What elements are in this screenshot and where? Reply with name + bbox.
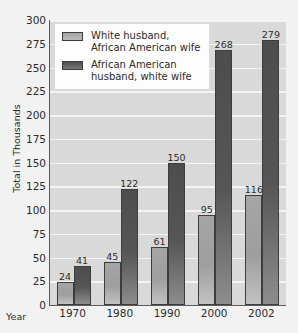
y-axis-tick-label: 225 bbox=[2, 85, 46, 97]
y-axis-tick-label: 300 bbox=[2, 14, 46, 26]
bar[interactable]: 279 bbox=[262, 40, 279, 305]
bar-value-label: 122 bbox=[120, 178, 138, 189]
x-axis-tick-label: 2002 bbox=[248, 307, 275, 319]
x-axis-tick-label: 1970 bbox=[59, 307, 86, 319]
y-axis-tick-label: 125 bbox=[2, 180, 46, 192]
y-axis-tick-label: 275 bbox=[2, 38, 46, 50]
bar-value-label: 279 bbox=[262, 29, 280, 40]
bar[interactable]: 95 bbox=[198, 215, 215, 305]
y-axis-tick-label: 250 bbox=[2, 62, 46, 74]
bar-value-label: 61 bbox=[153, 236, 165, 247]
y-axis-tick-label: 200 bbox=[2, 109, 46, 121]
bar-value-label: 268 bbox=[215, 39, 233, 50]
bar-value-label: 24 bbox=[59, 271, 71, 282]
x-axis-tick-label: 1990 bbox=[154, 307, 181, 319]
bar[interactable]: 45 bbox=[104, 262, 121, 305]
y-axis-tick-label: 0 bbox=[2, 299, 46, 311]
bar[interactable]: 61 bbox=[151, 247, 168, 305]
y-axis-tick-labels: 3002752502252001751501251007550250 bbox=[0, 0, 46, 333]
legend-label: African American husband, white wife bbox=[91, 59, 192, 83]
bar[interactable]: 122 bbox=[121, 189, 138, 305]
bar[interactable]: 24 bbox=[57, 282, 74, 305]
y-axis-tick-label: 150 bbox=[2, 157, 46, 169]
legend-swatch bbox=[62, 32, 83, 41]
legend-item[interactable]: White husband, African American wife bbox=[62, 30, 200, 54]
y-axis-tick-label: 75 bbox=[2, 228, 46, 240]
legend-swatch bbox=[62, 61, 83, 70]
bar-value-label: 41 bbox=[76, 255, 88, 266]
bar-group: 116279 bbox=[245, 20, 279, 305]
x-axis-tick-label: 2000 bbox=[201, 307, 228, 319]
bar[interactable]: 41 bbox=[74, 266, 91, 305]
bar[interactable]: 150 bbox=[168, 163, 185, 306]
bar[interactable]: 116 bbox=[245, 195, 262, 305]
bar-value-label: 116 bbox=[245, 184, 263, 195]
x-axis-tick-label: 1980 bbox=[106, 307, 133, 319]
bar-value-label: 95 bbox=[201, 204, 213, 215]
legend-item[interactable]: African American husband, white wife bbox=[62, 59, 200, 83]
y-axis-tick-label: 50 bbox=[2, 252, 46, 264]
chart-legend: White husband, African American wifeAfri… bbox=[55, 24, 209, 89]
y-axis-tick-label: 100 bbox=[2, 204, 46, 216]
bar-value-label: 150 bbox=[167, 152, 185, 163]
chart-figure: Between White and African Total in Thous… bbox=[0, 0, 298, 333]
bar[interactable]: 268 bbox=[215, 50, 232, 305]
y-axis-tick-label: 25 bbox=[2, 275, 46, 287]
bar-value-label: 45 bbox=[106, 251, 118, 262]
legend-label: White husband, African American wife bbox=[91, 30, 200, 54]
y-axis-tick-label: 175 bbox=[2, 133, 46, 145]
